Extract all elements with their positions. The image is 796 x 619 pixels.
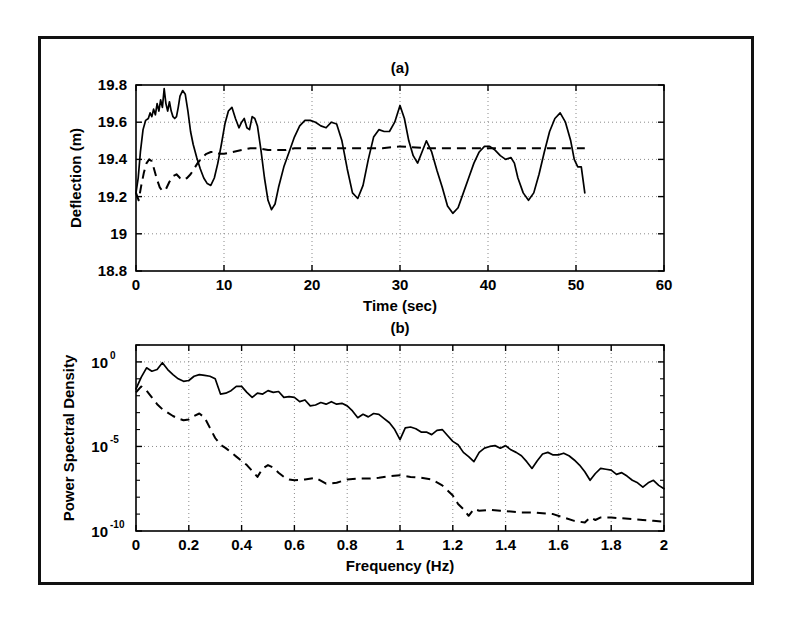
xtick-label: 1.8 bbox=[601, 536, 622, 553]
figure-outer-frame: 010203040506018.81919.219.419.619.8(a)Ti… bbox=[38, 36, 754, 585]
xtick-label: 40 bbox=[480, 276, 497, 293]
ytick-label: 19 bbox=[110, 225, 127, 242]
figure-canvas: 010203040506018.81919.219.419.619.8(a)Ti… bbox=[41, 39, 751, 582]
xtick-label: 0.8 bbox=[337, 536, 358, 553]
ytick-label: 10 bbox=[91, 438, 108, 455]
panel-a-xlabel: Time (sec) bbox=[363, 297, 437, 314]
panel-b-ylabel: Power Spectral Density bbox=[60, 354, 77, 521]
ytick-label-exponent: -5 bbox=[110, 434, 119, 445]
panel-b-title: (b) bbox=[390, 319, 409, 336]
panel-a-title: (a) bbox=[391, 59, 409, 76]
xtick-label: 0.2 bbox=[178, 536, 199, 553]
xtick-label: 30 bbox=[392, 276, 409, 293]
page-speck bbox=[773, 572, 776, 575]
ytick-label: 19.4 bbox=[98, 150, 128, 167]
xtick-label: 0.6 bbox=[284, 536, 305, 553]
xtick-label: 1 bbox=[396, 536, 404, 553]
figure-root: 010203040506018.81919.219.419.619.8(a)Ti… bbox=[0, 0, 796, 619]
xtick-label: 50 bbox=[568, 276, 585, 293]
ytick-label-exponent: 0 bbox=[110, 350, 116, 361]
xtick-label: 1.2 bbox=[442, 536, 463, 553]
ytick-label: 18.8 bbox=[98, 262, 127, 279]
ytick-label: 19.6 bbox=[98, 113, 127, 130]
ytick-label: 19.2 bbox=[98, 188, 127, 205]
ytick-label: 10 bbox=[91, 523, 108, 540]
xtick-label: 0 bbox=[132, 276, 140, 293]
xtick-label: 2 bbox=[660, 536, 668, 553]
xtick-label: 1.6 bbox=[548, 536, 569, 553]
series-reference-psd bbox=[136, 386, 664, 522]
ytick-label-exponent: -10 bbox=[110, 519, 125, 530]
xtick-label: 1.4 bbox=[495, 536, 517, 553]
ytick-label: 19.8 bbox=[98, 76, 127, 93]
xtick-label: 10 bbox=[216, 276, 233, 293]
ytick-label: 10 bbox=[91, 354, 108, 371]
xtick-label: 0.4 bbox=[231, 536, 253, 553]
panel-b: 00.20.40.60.811.21.41.61.8210010-510-10(… bbox=[60, 319, 668, 574]
panel-a-ylabel: Deflection (m) bbox=[67, 128, 84, 228]
xtick-label: 60 bbox=[656, 276, 673, 293]
panel-b-xlabel: Frequency (Hz) bbox=[346, 557, 454, 574]
series-measured-deflection bbox=[136, 89, 585, 214]
panel-a: 010203040506018.81919.219.419.619.8(a)Ti… bbox=[67, 59, 672, 314]
xtick-label: 20 bbox=[304, 276, 321, 293]
xtick-label: 0 bbox=[132, 536, 140, 553]
